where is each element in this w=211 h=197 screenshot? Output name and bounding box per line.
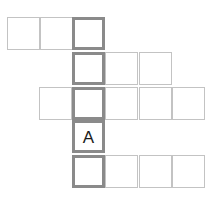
grid-cell-r1-c2	[72, 52, 105, 85]
grid-cell-r0-c2	[72, 17, 105, 50]
grid-cell-r0-c1	[40, 17, 73, 50]
grid-cell-r4-c2	[72, 155, 105, 188]
grid-cell-r4-c5	[172, 155, 205, 188]
grid-cell-r2-c1	[39, 87, 72, 120]
grid-cell-r1-c3	[105, 52, 138, 85]
grid-cell-r2-c4	[139, 87, 172, 120]
grid-cell-r2-c2	[72, 87, 105, 120]
grid-cell-r2-c3	[105, 87, 138, 120]
grid-cell-r3-c2: A	[72, 120, 105, 153]
cube-net-diagram: A	[0, 0, 211, 197]
cell-label-a: A	[75, 123, 102, 150]
grid-cell-r0-c0	[7, 17, 40, 50]
grid-cell-r4-c3	[105, 155, 138, 188]
grid-cell-r1-c4	[139, 52, 172, 85]
grid-cell-r2-c5	[172, 87, 205, 120]
grid-cell-r4-c4	[139, 155, 172, 188]
